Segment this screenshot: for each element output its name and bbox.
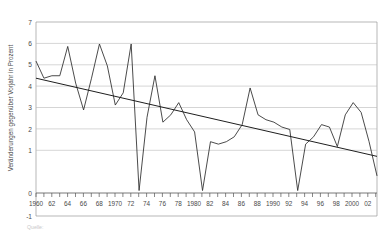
line-chart: 7 6 5 4 3 2 1 0 -1 — [0, 0, 389, 234]
y-tick-labels: 7 6 5 4 3 2 1 0 -1 — [26, 19, 32, 220]
x-tick-1966: 66 — [80, 200, 88, 207]
x-tick-1992: 92 — [285, 200, 293, 207]
y-tick-1: 1 — [28, 147, 32, 154]
y-tick-2: 2 — [28, 126, 32, 133]
plot-frame — [36, 22, 377, 216]
chart-container: 7 6 5 4 3 2 1 0 -1 — [0, 0, 389, 234]
x-tick-1980: 1980 — [187, 200, 202, 207]
x-tick-2002: 02 — [364, 200, 372, 207]
y-tick-0: 0 — [28, 190, 32, 197]
trend-line — [36, 78, 377, 156]
x-tick-1976: 76 — [159, 200, 167, 207]
x-tick-1972: 72 — [127, 200, 135, 207]
x-tick-1996: 96 — [317, 200, 325, 207]
source-note: Quelle: — [27, 224, 43, 230]
x-tick-1964: 64 — [64, 200, 72, 207]
x-tick-1988: 88 — [254, 200, 262, 207]
y-tick-7: 7 — [28, 19, 32, 26]
x-tick-1978: 78 — [175, 200, 183, 207]
y-tick-neg1: -1 — [26, 213, 32, 220]
y-axis-title: Veränderungen gegenüber Vorjahr in Proze… — [7, 44, 15, 171]
x-tick-1974: 74 — [143, 200, 151, 207]
x-tick-1984: 84 — [222, 200, 230, 207]
x-tick-1986: 86 — [238, 200, 246, 207]
x-tick-labels: 1960 62 64 66 68 1970 72 74 76 78 1980 8… — [29, 200, 372, 207]
x-tick-1968: 68 — [96, 200, 104, 207]
y-tick-6: 6 — [28, 40, 32, 47]
x-tick-1990: 1990 — [266, 200, 281, 207]
x-tick-1998: 98 — [333, 200, 341, 207]
y-tick-5: 5 — [28, 61, 32, 68]
x-tick-1970: 1970 — [108, 200, 123, 207]
x-tick-2000: 2000 — [345, 200, 360, 207]
x-tick-1982: 82 — [206, 200, 214, 207]
x-tick-1962: 62 — [48, 200, 56, 207]
x-tick-marks — [36, 193, 376, 197]
x-tick-1994: 94 — [301, 200, 309, 207]
y-tick-3: 3 — [28, 104, 32, 111]
y-tick-4: 4 — [28, 83, 32, 90]
x-tick-1960: 1960 — [29, 200, 44, 207]
